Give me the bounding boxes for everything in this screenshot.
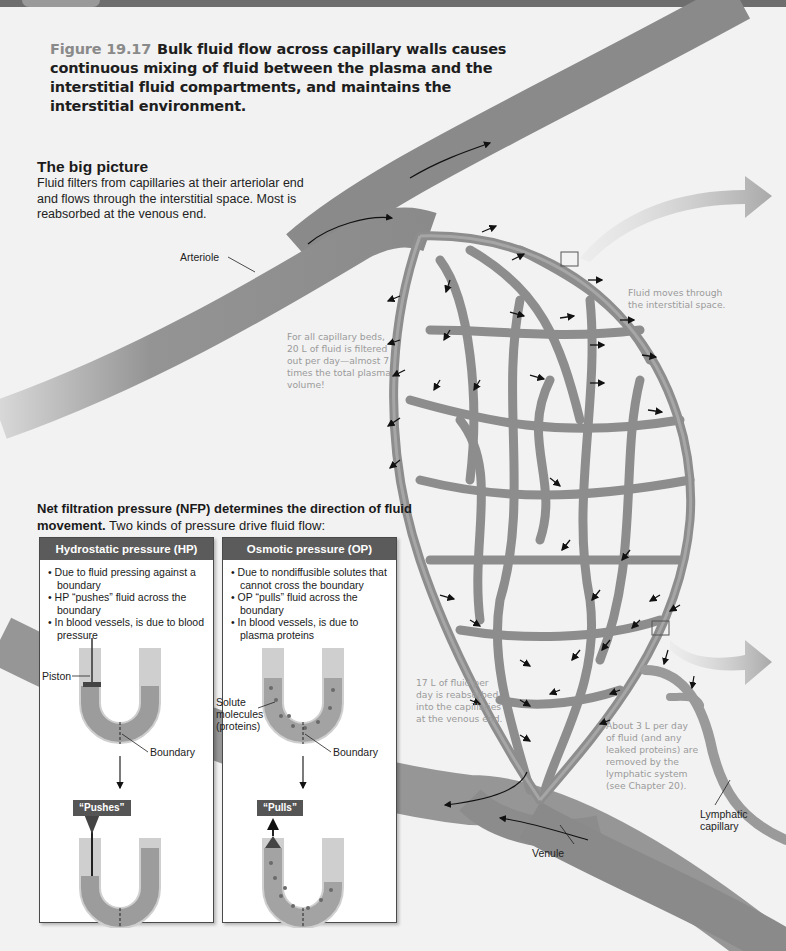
pulls-tag: “Pulls”	[257, 800, 303, 816]
solute-label-line: molecules	[216, 708, 263, 720]
bullet: Due to fluid pressing against a boundary	[48, 566, 207, 591]
note-line: of fluid (and any	[606, 732, 698, 744]
note-line: out per day—almost 7	[287, 355, 391, 367]
arteriole-label: Arteriole	[180, 251, 219, 263]
bullet: OP “pulls” fluid across the boundary	[231, 591, 390, 616]
note-line: lymphatic system	[606, 768, 698, 780]
note-lymphatic: About 3 L per day of fluid (and any leak…	[606, 720, 698, 792]
lymphatic-label-line1: Lymphatic	[700, 808, 747, 820]
note-line: day is reabsorbed	[416, 689, 502, 701]
osmotic-panel-title: Osmotic pressure (OP)	[223, 538, 396, 560]
nfp-heading: Net filtration pressure (NFP) determines…	[37, 500, 417, 534]
note-line: 17 L of fluid per	[416, 677, 502, 689]
big-picture-text: Fluid filters from capillaries at their …	[37, 176, 327, 223]
venule-label: Venule	[532, 847, 564, 859]
lymphatic-capillary-label: Lymphaticcapillary	[700, 808, 747, 832]
zoom-box-upper	[561, 252, 578, 266]
note-line: volume!	[287, 379, 391, 391]
note-line: 20 L of fluid is filtered	[287, 343, 391, 355]
note-line: removed by the	[606, 756, 698, 768]
note-line: times the total plasma	[287, 367, 391, 379]
big-picture-section: The big picture Fluid filters from capil…	[37, 158, 327, 223]
note-reabsorbed: 17 L of fluid per day is reabsorbed into…	[416, 677, 502, 725]
interstitial-flow-arrow-upper	[580, 176, 772, 262]
op-boundary-label: Boundary	[333, 746, 378, 758]
note-line: the interstitial space.	[628, 299, 725, 311]
u-tube-diagram-op	[223, 638, 396, 928]
piston-label: Piston	[42, 670, 71, 682]
hp-boundary-label: Boundary	[150, 746, 195, 758]
note-filtered: For all capillary beds, 20 L of fluid is…	[287, 331, 391, 391]
nfp-rest: Two kinds of pressure drive fluid flow:	[106, 518, 325, 533]
hydrostatic-panel: Hydrostatic pressure (HP) Due to fluid p…	[39, 537, 214, 923]
big-picture-heading: The big picture	[37, 158, 327, 176]
solute-label-line: (proteins)	[216, 720, 263, 732]
figure-number: Figure 19.17	[50, 41, 151, 57]
note-line: at the venous end.	[416, 713, 502, 725]
note-line: About 3 L per day	[606, 720, 698, 732]
note-line: into the capillaries	[416, 701, 502, 713]
bullet: HP “pushes” fluid across the boundary	[48, 591, 207, 616]
filtration-arrows	[388, 226, 662, 486]
note-interstitial: Fluid moves through the interstitial spa…	[628, 287, 725, 311]
interstitial-flow-arrow-lower	[670, 640, 772, 685]
bullet: Due to nondiffusible solutes that cannot…	[231, 566, 390, 591]
figure-caption: Figure 19.17Bulk fluid flow across capil…	[50, 40, 520, 116]
note-line: (see Chapter 20).	[606, 780, 698, 792]
osmotic-bullets: Due to nondiffusible solutes that cannot…	[223, 566, 396, 641]
note-line: Fluid moves through	[628, 287, 725, 299]
solute-label-line: Solute	[216, 696, 263, 708]
hydrostatic-panel-title: Hydrostatic pressure (HP)	[40, 538, 213, 560]
note-line: leaked proteins) are	[606, 744, 698, 756]
osmotic-panel: Osmotic pressure (OP) Due to nondiffusib…	[222, 537, 397, 923]
note-line: For all capillary beds,	[287, 331, 391, 343]
pushes-tag: “Pushes”	[73, 800, 131, 816]
solute-label: Solute molecules (proteins)	[216, 696, 263, 732]
lymphatic-label-line2: capillary	[700, 820, 747, 832]
piston-icon	[83, 682, 101, 687]
hydrostatic-bullets: Due to fluid pressing against a boundary…	[40, 566, 213, 641]
